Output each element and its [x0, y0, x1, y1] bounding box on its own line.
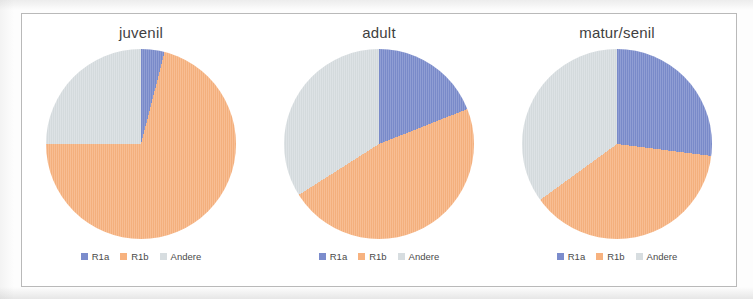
legend-label-andere: Andere — [171, 251, 202, 262]
pie-panel-juvenil: juvenil R1a R1b Andere — [22, 14, 260, 286]
legend-item-r1a: R1a — [319, 251, 347, 262]
legend-item-r1a: R1a — [557, 251, 585, 262]
legend-swatch-r1b-icon — [596, 253, 603, 260]
legend-item-r1a: R1a — [81, 251, 109, 262]
legend-label-r1b: R1b — [131, 251, 148, 262]
legend-swatch-r1a-icon — [319, 253, 326, 260]
legend-item-andere: Andere — [398, 251, 440, 262]
scanned-page: juvenil R1a R1b Andere a — [0, 0, 753, 299]
pie-chart-juvenil — [46, 49, 236, 239]
legend-label-r1a: R1a — [330, 251, 347, 262]
pie-chart-matur-senil-wrapper — [520, 47, 714, 241]
legend-juvenil: R1a R1b Andere — [81, 251, 202, 262]
legend-item-andere: Andere — [160, 251, 202, 262]
legend-swatch-r1b-icon — [358, 253, 365, 260]
pie-chart-adult-wrapper — [282, 47, 476, 241]
legend-swatch-r1a-icon — [81, 253, 88, 260]
pie-chart-juvenil-wrapper — [44, 47, 238, 241]
legend-label-andere: Andere — [647, 251, 678, 262]
panel-title-matur-senil: matur/senil — [579, 23, 655, 43]
panel-title-adult: adult — [362, 23, 396, 43]
legend-item-r1b: R1b — [120, 251, 148, 262]
legend-matur-senil: R1a R1b Andere — [557, 251, 678, 262]
legend-swatch-andere-icon — [160, 253, 167, 260]
legend-swatch-andere-icon — [636, 253, 643, 260]
pie-panel-matur-senil: matur/senil R1a R1b Andere — [498, 14, 736, 286]
legend-label-r1b: R1b — [607, 251, 624, 262]
legend-item-r1b: R1b — [596, 251, 624, 262]
figure-frame: juvenil R1a R1b Andere a — [21, 13, 737, 287]
pie-panel-adult: adult R1a R1b Andere — [260, 14, 498, 286]
legend-swatch-r1a-icon — [557, 253, 564, 260]
legend-label-r1a: R1a — [568, 251, 585, 262]
legend-adult: R1a R1b Andere — [319, 251, 440, 262]
legend-item-andere: Andere — [636, 251, 678, 262]
legend-label-r1b: R1b — [369, 251, 386, 262]
pie-chart-adult — [284, 49, 474, 239]
legend-item-r1b: R1b — [358, 251, 386, 262]
legend-swatch-andere-icon — [398, 253, 405, 260]
legend-label-r1a: R1a — [92, 251, 109, 262]
panel-title-juvenil: juvenil — [119, 23, 163, 43]
pie-chart-matur-senil — [522, 49, 712, 239]
legend-label-andere: Andere — [409, 251, 440, 262]
scan-edge-shadow-top — [0, 0, 753, 10]
scan-edge-shadow-bottom — [0, 287, 753, 299]
scan-edge-shadow-left — [0, 0, 14, 299]
legend-swatch-r1b-icon — [120, 253, 127, 260]
